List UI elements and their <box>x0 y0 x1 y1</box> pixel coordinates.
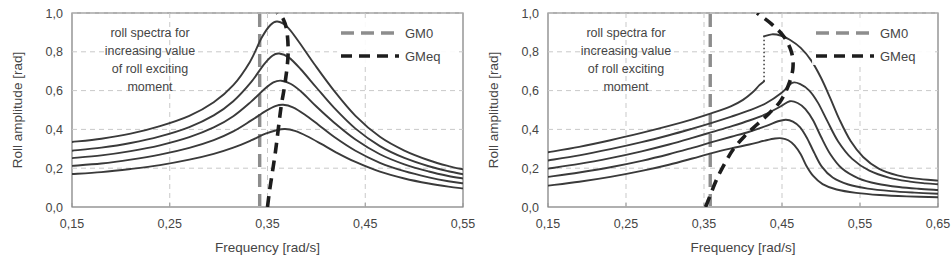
x-tick-label: 0,65 <box>926 217 950 231</box>
y-tick-label: 0,2 <box>522 162 539 176</box>
x-tick-label: 0,45 <box>770 217 794 231</box>
y-tick-labels: 0,00,20,40,60,81,0 <box>46 7 63 215</box>
x-axis-title: Frequency [rad/s] <box>690 240 795 255</box>
x-axis-title: Frequency [rad/s] <box>215 240 320 255</box>
legend-label-gmeq: GMeq <box>880 49 915 64</box>
y-tick-label: 0,8 <box>46 45 63 59</box>
annotation-line: roll spectra for <box>110 26 189 40</box>
y-tick-label: 0,8 <box>522 45 539 59</box>
chart-left: 0,00,20,40,60,81,00,150,250,350,450,55Fr… <box>0 0 476 275</box>
chart-panel-right: 0,00,20,40,60,81,00,150,250,350,450,550,… <box>476 0 951 275</box>
y-tick-label: 0,4 <box>46 123 63 137</box>
legend-label-gm0: GM0 <box>405 26 433 41</box>
annotation-line: moment <box>603 80 649 94</box>
x-tick-label: 0,25 <box>158 217 182 231</box>
annotation-line: of roll exciting <box>588 62 664 76</box>
x-tick-label: 0,45 <box>353 217 377 231</box>
legend: GM0GMeq <box>337 19 457 65</box>
x-tick-labels: 0,150,250,350,450,55 <box>60 217 475 231</box>
x-tick-label: 0,55 <box>451 217 475 231</box>
legend-label-gmeq: GMeq <box>405 49 440 64</box>
x-tick-label: 0,55 <box>848 217 872 231</box>
y-axis-title: Roll amplitude [rad] <box>486 52 501 168</box>
x-tick-labels: 0,150,250,350,450,550,65 <box>536 217 950 231</box>
chart-panel-left: 0,00,20,40,60,81,00,150,250,350,450,55Fr… <box>0 0 476 275</box>
y-tick-label: 0,4 <box>522 123 539 137</box>
y-tick-label: 1,0 <box>522 7 539 21</box>
annotation-line: moment <box>127 80 173 94</box>
chart-right: 0,00,20,40,60,81,00,150,250,350,450,550,… <box>476 0 951 275</box>
y-tick-labels: 0,00,20,40,60,81,0 <box>522 7 539 215</box>
x-tick-label: 0,35 <box>692 217 716 231</box>
annotation-line: increasing value <box>105 44 195 58</box>
annotation-line: of roll exciting <box>112 62 188 76</box>
y-axis-title: Roll amplitude [rad] <box>10 52 25 168</box>
x-tick-label: 0,25 <box>614 217 638 231</box>
y-tick-label: 1,0 <box>46 7 63 21</box>
y-tick-label: 0,6 <box>46 84 63 98</box>
y-tick-label: 0,0 <box>46 201 63 215</box>
legend: GM0GMeq <box>812 19 932 65</box>
y-tick-label: 0,0 <box>522 201 539 215</box>
legend-label-gm0: GM0 <box>880 26 908 41</box>
annotation-line: roll spectra for <box>586 26 665 40</box>
x-tick-label: 0,15 <box>536 217 560 231</box>
x-tick-label: 0,15 <box>60 217 84 231</box>
x-tick-label: 0,35 <box>255 217 279 231</box>
y-tick-label: 0,2 <box>46 162 63 176</box>
y-tick-label: 0,6 <box>522 84 539 98</box>
roll-spectra-figure: 0,00,20,40,60,81,00,150,250,350,450,55Fr… <box>0 0 951 275</box>
annotation-line: increasing value <box>581 44 671 58</box>
